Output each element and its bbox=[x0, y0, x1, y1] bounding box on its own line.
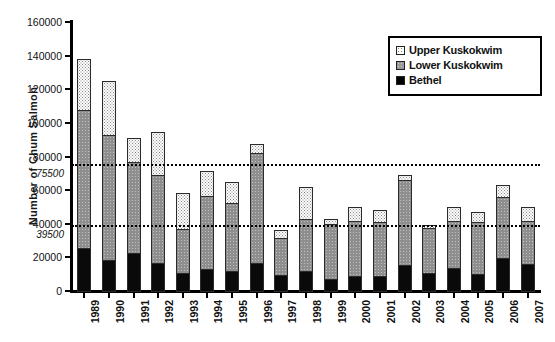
x-axis-tick bbox=[157, 293, 159, 298]
y-axis-tick bbox=[65, 122, 71, 124]
bar-segment bbox=[348, 276, 362, 292]
x-axis-tick bbox=[404, 293, 406, 298]
bar-segment bbox=[77, 248, 91, 292]
y-axis-tick-label: 120000 bbox=[27, 83, 62, 95]
bar-segment bbox=[299, 271, 313, 292]
x-axis-label: 1992 bbox=[163, 300, 175, 323]
x-axis-label: 2007 bbox=[533, 300, 545, 323]
bar-segment bbox=[471, 274, 485, 292]
bar-segment bbox=[77, 59, 91, 111]
legend-item[interactable]: Lower Kuskokwim bbox=[396, 59, 534, 71]
bar-group[interactable] bbox=[176, 193, 190, 291]
bar-segment bbox=[373, 276, 387, 292]
y-axis-tick bbox=[65, 55, 71, 57]
bar-segment bbox=[176, 229, 190, 274]
x-axis-label: 2004 bbox=[459, 300, 471, 323]
bar-segment bbox=[250, 153, 264, 264]
bar-segment bbox=[127, 162, 141, 254]
x-axis-label: 1997 bbox=[286, 300, 298, 323]
y-axis-tick-label: 140000 bbox=[27, 50, 62, 62]
bar-group[interactable] bbox=[299, 187, 313, 291]
x-axis-label: 2006 bbox=[508, 300, 520, 323]
bar-segment bbox=[299, 219, 313, 272]
bar-segment bbox=[324, 224, 338, 280]
y-axis-tick bbox=[65, 256, 71, 258]
x-axis-label: 1998 bbox=[311, 300, 323, 323]
reference-line-label: 39500 bbox=[36, 228, 64, 239]
bar-group[interactable] bbox=[274, 230, 288, 291]
x-axis-tick bbox=[108, 293, 110, 298]
y-axis-tick bbox=[65, 223, 71, 225]
x-axis-tick bbox=[305, 293, 307, 298]
bar-group[interactable] bbox=[398, 175, 412, 291]
bar-segment bbox=[77, 110, 91, 250]
x-axis-label: 1994 bbox=[212, 300, 224, 323]
bar-group[interactable] bbox=[521, 207, 535, 291]
legend-item-label: Upper Kuskokwim bbox=[409, 44, 502, 56]
bar-group[interactable] bbox=[127, 138, 141, 291]
x-axis-label: 2005 bbox=[483, 300, 495, 323]
legend: Upper KuskokwimLower KuskokwimBethel bbox=[388, 36, 542, 96]
bar-group[interactable] bbox=[471, 212, 485, 291]
x-axis-label: 1996 bbox=[262, 300, 274, 323]
legend-item-label: Lower Kuskokwim bbox=[409, 59, 503, 71]
reference-line bbox=[72, 225, 540, 227]
bar-segment bbox=[151, 132, 165, 177]
x-axis-tick bbox=[280, 293, 282, 298]
bar-group[interactable] bbox=[151, 132, 165, 291]
bar-segment bbox=[200, 196, 214, 270]
bar-segment bbox=[496, 258, 510, 292]
x-axis-tick bbox=[256, 293, 258, 298]
x-axis-tick bbox=[133, 293, 135, 298]
bar-segment bbox=[176, 273, 190, 292]
x-axis-tick bbox=[477, 293, 479, 298]
bar-segment bbox=[102, 135, 116, 261]
y-axis-tick-label: 60000 bbox=[33, 184, 62, 196]
y-axis-tick bbox=[65, 88, 71, 90]
x-axis-label: 1995 bbox=[237, 300, 249, 323]
bar-group[interactable] bbox=[447, 207, 461, 291]
bar-segment bbox=[225, 271, 239, 292]
bar-segment bbox=[398, 265, 412, 292]
bar-group[interactable] bbox=[373, 210, 387, 291]
bar-group[interactable] bbox=[496, 185, 510, 291]
y-axis-tick-label: 100000 bbox=[27, 117, 62, 129]
bar-segment bbox=[299, 187, 313, 220]
x-axis-label: 1990 bbox=[114, 300, 126, 323]
bar-segment bbox=[373, 210, 387, 223]
x-axis-label: 2000 bbox=[360, 300, 372, 323]
bar-segment bbox=[422, 228, 436, 273]
bar-segment bbox=[200, 269, 214, 292]
legend-item[interactable]: Bethel bbox=[396, 74, 534, 86]
reference-line bbox=[72, 164, 540, 166]
bar-group[interactable] bbox=[77, 59, 91, 291]
upper-kuskokwim-swatch-icon bbox=[396, 46, 405, 55]
bar-segment bbox=[151, 175, 165, 264]
y-axis-tick-label: 0 bbox=[56, 285, 62, 297]
bethel-swatch-icon bbox=[396, 76, 405, 85]
chum-salmon-stacked-bar-chart: Number of Chum Salmon 020000400006000080… bbox=[0, 0, 555, 342]
bar-segment bbox=[127, 253, 141, 292]
bar-group[interactable] bbox=[422, 225, 436, 291]
x-axis-tick bbox=[206, 293, 208, 298]
y-axis-tick bbox=[65, 156, 71, 158]
bar-group[interactable] bbox=[225, 182, 239, 291]
x-axis-tick bbox=[83, 293, 85, 298]
y-axis-tick-label: 80000 bbox=[33, 151, 62, 163]
bar-group[interactable] bbox=[348, 207, 362, 291]
bar-group[interactable] bbox=[324, 219, 338, 291]
bar-segment bbox=[447, 207, 461, 222]
bar-group[interactable] bbox=[102, 81, 116, 291]
bar-segment bbox=[422, 273, 436, 292]
x-axis-label: 1991 bbox=[139, 300, 151, 323]
x-axis-tick bbox=[330, 293, 332, 298]
bar-segment bbox=[521, 221, 535, 266]
bar-segment bbox=[496, 197, 510, 259]
y-axis-tick bbox=[65, 189, 71, 191]
x-axis-label: 2002 bbox=[410, 300, 422, 323]
y-axis-tick bbox=[65, 21, 71, 23]
legend-item[interactable]: Upper Kuskokwim bbox=[396, 44, 534, 56]
bar-segment bbox=[274, 238, 288, 276]
bar-group[interactable] bbox=[200, 171, 214, 291]
bar-segment bbox=[447, 221, 461, 269]
